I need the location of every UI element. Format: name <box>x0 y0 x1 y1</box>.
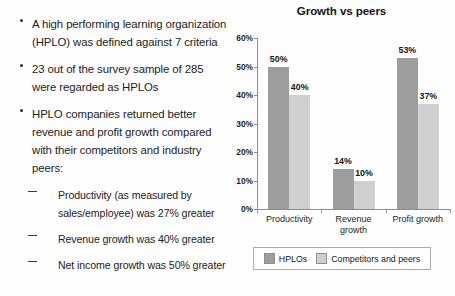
dash-bullet-icon <box>28 235 37 236</box>
dash-bullet-icon <box>28 261 37 262</box>
x-axis-tick-mark <box>450 209 451 213</box>
sub-bullet-text: Revenue growth was 40% greater <box>58 233 215 245</box>
legend-item-series-1: Competitors and peers <box>316 253 420 264</box>
sub-bullet-text: Net income growth was 50% greater <box>58 259 225 271</box>
sub-list-item: Net income growth was 50% greater <box>12 255 230 273</box>
bar-value-label: 10% <box>348 168 381 178</box>
y-axis-tick-mark <box>254 124 257 125</box>
bar-value-label: 40% <box>283 82 316 92</box>
list-item: A high performing learning organization … <box>12 14 230 50</box>
y-axis-tick-label: 10% <box>228 176 253 186</box>
list-item: HPLO companies returned better revenue a… <box>12 104 230 176</box>
sub-list-item: Productivity (as measured by sales/emplo… <box>12 185 230 221</box>
y-axis-line <box>257 38 258 210</box>
y-axis-tick-mark <box>254 95 257 96</box>
y-axis-tick-label: 60% <box>228 33 253 43</box>
y-axis-tick-mark <box>254 181 257 182</box>
y-axis-tick-label: 30% <box>228 119 253 129</box>
bullet-text: A high performing learning organization … <box>32 18 226 48</box>
bullet-dot-icon <box>20 64 23 67</box>
y-axis-tick-label: 20% <box>228 147 253 157</box>
y-axis-tick-mark <box>254 38 257 39</box>
sub-list-item: Revenue growth was 40% greater <box>12 229 230 247</box>
y-axis-tick-label: 40% <box>228 90 253 100</box>
bullet-list: A high performing learning organization … <box>12 14 230 281</box>
bar-productivity-competitors-and-peers[interactable] <box>289 95 310 209</box>
x-axis-category-label: Profit growth <box>386 214 450 225</box>
bullet-text: 23 out of the survey sample of 285 were … <box>32 63 203 93</box>
legend-item-series-0: HPLOs <box>264 253 307 264</box>
legend-swatch-icon <box>264 253 275 264</box>
bar-profit-growth-competitors-and-peers[interactable] <box>418 104 439 209</box>
bullet-dot-icon <box>20 19 23 22</box>
bar-profit-growth-hplos[interactable] <box>397 58 418 209</box>
legend-label: Competitors and peers <box>331 254 420 264</box>
legend-label: HPLOs <box>279 254 307 264</box>
y-axis-tick-mark <box>254 67 257 68</box>
bar-value-label: 37% <box>412 91 445 101</box>
x-axis-tick-mark <box>257 209 258 213</box>
bar-value-label: 53% <box>391 45 424 55</box>
bullet-dot-icon <box>20 109 23 112</box>
bar-value-label: 50% <box>262 54 295 64</box>
x-axis-tick-mark <box>321 209 322 213</box>
x-axis-category-label: Productivity <box>257 214 321 225</box>
legend-swatch-icon <box>316 253 327 264</box>
bar-revenue-growth-competitors-and-peers[interactable] <box>354 181 375 210</box>
dash-bullet-icon <box>28 191 37 192</box>
sub-bullet-text: Productivity (as measured by sales/emplo… <box>58 189 214 219</box>
slide-canvas: A high performing learning organization … <box>0 0 455 296</box>
bullet-text: HPLO companies returned better revenue a… <box>32 108 212 174</box>
chart-legend: HPLOs Competitors and peers <box>253 247 431 270</box>
list-item: 23 out of the survey sample of 285 were … <box>12 59 230 95</box>
x-axis-line <box>257 209 450 210</box>
bar-value-label: 14% <box>327 156 360 166</box>
x-axis-tick-mark <box>386 209 387 213</box>
y-axis-tick-mark <box>254 152 257 153</box>
x-axis-category-label: Revenue growth <box>321 214 385 236</box>
bar-chart: Growth vs peers 0%10%20%30%40%50%60%50%4… <box>228 0 455 296</box>
y-axis-tick-label: 0% <box>228 204 253 214</box>
y-axis-tick-label: 50% <box>228 62 253 72</box>
